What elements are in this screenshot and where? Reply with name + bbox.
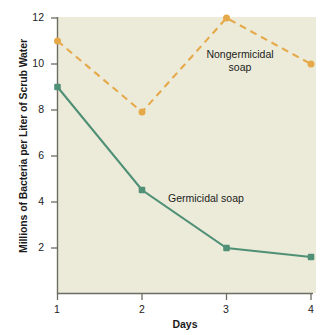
chart-figure: Millions of Bacteria per Liter of Scrub … [0,0,328,335]
data-point-germicidal-day1 [54,84,61,91]
series-label-nongermicidal: Nongermicidal soap [192,48,288,74]
x-tick-label-3: 3 [216,303,236,315]
x-axis-title: Days [110,318,260,330]
data-point-germicidal-day4 [308,254,315,261]
data-point-nongermicidal-day4 [308,61,315,68]
x-tick-label-1: 1 [47,303,67,315]
data-point-nongermicidal-day3 [223,15,230,22]
y-tick-label-8: 8 [22,104,44,115]
data-point-germicidal-day2 [139,187,146,194]
y-tick-label-4: 4 [22,196,44,207]
data-point-nongermicidal-day2 [139,109,146,116]
x-tick-label-4: 4 [301,303,321,315]
y-tick-label-2: 2 [22,242,44,253]
series-label-germicidal: Germicidal soap [168,192,278,205]
data-point-nongermicidal-day1 [54,38,61,45]
y-tick-label-12: 12 [22,12,44,23]
y-tick-label-6: 6 [22,150,44,161]
y-tick-label-10: 10 [22,58,44,69]
data-point-germicidal-day3 [223,245,230,252]
x-tick-label-2: 2 [132,303,152,315]
